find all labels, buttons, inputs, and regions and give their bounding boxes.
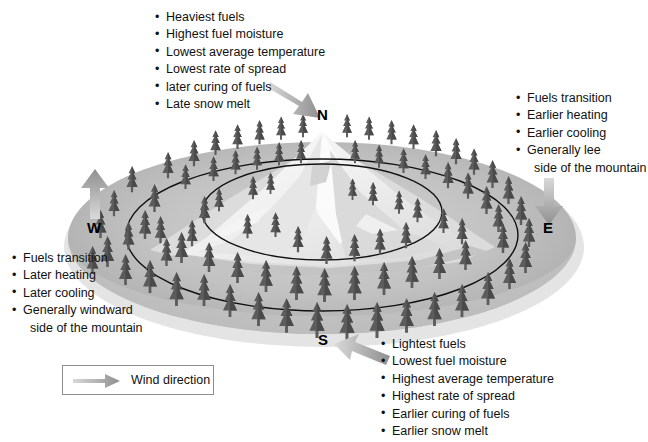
- list-item: Lowest fuel moisture: [381, 353, 554, 370]
- list-item: Lowest average temperature: [155, 44, 325, 61]
- list-item: Later cooling: [12, 285, 143, 302]
- list-item: later curing of fuels: [155, 79, 325, 96]
- list-item: Earlier curing of fuels: [381, 406, 554, 423]
- aspect-notes-north: Heaviest fuels Highest fuel moisture Low…: [155, 9, 325, 113]
- list-item: Earlier snow melt: [381, 423, 554, 440]
- diagram-canvas: N E W S Heaviest fuels Highest fuel mois…: [0, 0, 648, 442]
- list-item: Lowest rate of spread: [155, 61, 325, 78]
- legend-box: Wind direction: [62, 365, 214, 395]
- aspect-notes-west: Fuels transition Later heating Later coo…: [12, 250, 143, 337]
- compass-label-south: S: [318, 331, 328, 348]
- list-item: Later heating: [12, 267, 143, 284]
- list-item-continuation: side of the mountain: [12, 320, 143, 337]
- legend-label: Wind direction: [131, 373, 210, 387]
- list-item: Generally windward: [12, 302, 143, 319]
- list-item: Generally lee: [516, 142, 647, 159]
- wind-direction-icon: [73, 374, 121, 388]
- list-item: Heaviest fuels: [155, 9, 325, 26]
- list-item-continuation: side of the mountain: [516, 160, 647, 177]
- list-item: Late snow melt: [155, 96, 325, 113]
- aspect-notes-south: Lightest fuels Lowest fuel moisture High…: [381, 336, 554, 440]
- list-item: Highest fuel moisture: [155, 26, 325, 43]
- aspect-notes-east: Fuels transition Earlier heating Earlier…: [516, 90, 647, 177]
- list-item: Highest rate of spread: [381, 388, 554, 405]
- wind-arrow-west-icon: [80, 168, 110, 220]
- list-item: Lightest fuels: [381, 336, 554, 353]
- list-item: Highest average temperature: [381, 371, 554, 388]
- compass-label-west: W: [87, 219, 101, 236]
- compass-label-east: E: [543, 219, 553, 236]
- list-item: Earlier heating: [516, 107, 647, 124]
- list-item: Fuels transition: [12, 250, 143, 267]
- list-item: Earlier cooling: [516, 125, 647, 142]
- list-item: Fuels transition: [516, 90, 647, 107]
